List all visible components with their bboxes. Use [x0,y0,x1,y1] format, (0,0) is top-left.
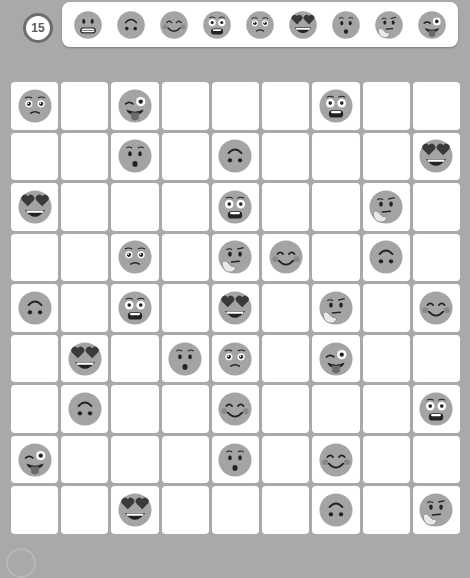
board-cell-r6-c3[interactable] [162,385,209,433]
palette-item-smiling-blush[interactable] [158,9,190,41]
board-cell-r3-c8[interactable] [413,234,460,282]
board-cell-r8-c2[interactable] [111,486,158,534]
board-cell-r3-c7[interactable] [363,234,410,282]
board-cell-r6-c0[interactable] [11,385,58,433]
board-cell-r3-c0[interactable] [11,234,58,282]
board-cell-r0-c3[interactable] [162,82,209,130]
board-cell-r1-c3[interactable] [162,133,209,181]
palette-item-flushed[interactable] [201,9,233,41]
board-cell-r8-c8[interactable] [413,486,460,534]
board-cell-r0-c1[interactable] [61,82,108,130]
board-cell-r4-c0[interactable] [11,284,58,332]
board-cell-r2-c7[interactable] [363,183,410,231]
palette-item-winking-tongue[interactable] [416,9,448,41]
board-cell-r0-c4[interactable] [212,82,259,130]
board-cell-r7-c6[interactable] [312,436,359,484]
board-cell-r4-c3[interactable] [162,284,209,332]
board-cell-r8-c7[interactable] [363,486,410,534]
palette-item-heart-eyes[interactable] [287,9,319,41]
board-cell-r8-c1[interactable] [61,486,108,534]
winking-tongue-face-icon [17,442,53,478]
board-cell-r2-c2[interactable] [111,183,158,231]
board-cell-r5-c2[interactable] [111,335,158,383]
board-cell-r6-c8[interactable] [413,385,460,433]
board-cell-r0-c5[interactable] [262,82,309,130]
board-cell-r7-c3[interactable] [162,436,209,484]
board-cell-r5-c5[interactable] [262,335,309,383]
thinking-face-icon [217,239,253,275]
board-cell-r1-c2[interactable] [111,133,158,181]
board-cell-r0-c0[interactable] [11,82,58,130]
board-cell-r1-c8[interactable] [413,133,460,181]
palette-item-thinking[interactable] [373,9,405,41]
board-cell-r5-c8[interactable] [413,335,460,383]
board-cell-r0-c6[interactable] [312,82,359,130]
board-cell-r8-c5[interactable] [262,486,309,534]
smiling-blush-face-icon [418,290,454,326]
palette-item-holding-back-tears[interactable] [244,9,276,41]
board-cell-r7-c0[interactable] [11,436,58,484]
hushed-face-icon [167,341,203,377]
board-cell-r7-c4[interactable] [212,436,259,484]
board-cell-r2-c6[interactable] [312,183,359,231]
board-cell-r1-c5[interactable] [262,133,309,181]
board-cell-r2-c0[interactable] [11,183,58,231]
board-cell-r4-c4[interactable] [212,284,259,332]
board-cell-r4-c2[interactable] [111,284,158,332]
board-cell-r7-c1[interactable] [61,436,108,484]
hushed-face-icon [117,138,153,174]
board-cell-r2-c8[interactable] [413,183,460,231]
board-cell-r4-c8[interactable] [413,284,460,332]
board-cell-r5-c1[interactable] [61,335,108,383]
board-cell-r8-c3[interactable] [162,486,209,534]
board-cell-r5-c7[interactable] [363,335,410,383]
board-cell-r7-c8[interactable] [413,436,460,484]
board-cell-r6-c7[interactable] [363,385,410,433]
palette-item-upside-down[interactable] [115,9,147,41]
board-cell-r3-c2[interactable] [111,234,158,282]
board-cell-r6-c2[interactable] [111,385,158,433]
board-cell-r0-c8[interactable] [413,82,460,130]
board-cell-r3-c1[interactable] [61,234,108,282]
board-cell-r5-c4[interactable] [212,335,259,383]
board-cell-r3-c6[interactable] [312,234,359,282]
board-cell-r3-c5[interactable] [262,234,309,282]
board-cell-r4-c1[interactable] [61,284,108,332]
board-cell-r5-c6[interactable] [312,335,359,383]
board-cell-r4-c6[interactable] [312,284,359,332]
board-cell-r2-c4[interactable] [212,183,259,231]
palette-item-grimacing[interactable] [72,9,104,41]
board-cell-r2-c3[interactable] [162,183,209,231]
board-cell-r4-c7[interactable] [363,284,410,332]
board-cell-r7-c7[interactable] [363,436,410,484]
board-cell-r1-c6[interactable] [312,133,359,181]
board-cell-r6-c5[interactable] [262,385,309,433]
holding-back-tears-face-icon [217,341,253,377]
thinking-face-icon [368,189,404,225]
board-cell-r4-c5[interactable] [262,284,309,332]
board-cell-r2-c1[interactable] [61,183,108,231]
board-cell-r1-c7[interactable] [363,133,410,181]
board-cell-r6-c6[interactable] [312,385,359,433]
board-cell-r5-c3[interactable] [162,335,209,383]
board-cell-r8-c0[interactable] [11,486,58,534]
board-cell-r1-c4[interactable] [212,133,259,181]
board-cell-r0-c7[interactable] [363,82,410,130]
board-cell-r3-c4[interactable] [212,234,259,282]
board-cell-r5-c0[interactable] [11,335,58,383]
board-cell-r1-c0[interactable] [11,133,58,181]
palette-item-hushed[interactable] [330,9,362,41]
board-cell-r6-c4[interactable] [212,385,259,433]
thinking-face-icon [418,492,454,528]
board-cell-r6-c1[interactable] [61,385,108,433]
board-cell-r7-c5[interactable] [262,436,309,484]
board-cell-r8-c6[interactable] [312,486,359,534]
board-cell-r8-c4[interactable] [212,486,259,534]
board-cell-r0-c2[interactable] [111,82,158,130]
thinking-face-icon [318,290,354,326]
board-cell-r3-c3[interactable] [162,234,209,282]
smiling-blush-face-icon [159,10,189,40]
board-cell-r2-c5[interactable] [262,183,309,231]
board-cell-r1-c1[interactable] [61,133,108,181]
board-cell-r7-c2[interactable] [111,436,158,484]
